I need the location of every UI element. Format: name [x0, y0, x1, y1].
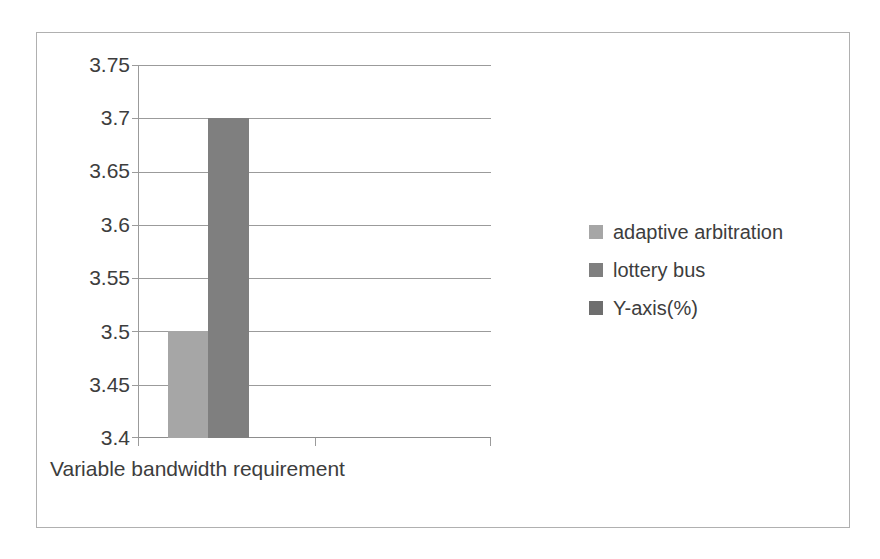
legend-item-label: lottery bus: [613, 260, 705, 280]
y-tick-mark: [132, 225, 139, 226]
chart-frame: 3.75 3.7 3.65 3.6 3.55 3.5 3.45 3.4: [36, 32, 850, 528]
y-axis-tick-label: 3.5: [101, 321, 130, 342]
gridline-3-65: [138, 172, 491, 173]
gridline-3-70: [138, 118, 491, 119]
legend-item-y-axis[interactable]: Y-axis(%): [589, 289, 783, 327]
bar-lottery-bus: [208, 118, 249, 438]
y-axis-tick-label: 3.4: [101, 427, 130, 448]
y-axis-line: [138, 65, 139, 438]
y-axis-tick-label: 3.7: [101, 107, 130, 128]
y-axis-tick-labels: 3.75 3.7 3.65 3.6 3.55 3.5 3.45 3.4: [37, 65, 130, 438]
y-tick-mark: [132, 278, 139, 279]
legend-swatch-icon: [589, 301, 603, 315]
bar-adaptive-arbitration: [168, 331, 208, 438]
y-axis-tick-label: 3.45: [89, 374, 130, 395]
y-axis-tick-label: 3.55: [89, 267, 130, 288]
legend-item-label: adaptive arbitration: [613, 222, 783, 242]
legend-swatch-icon: [589, 263, 603, 277]
x-tick-mark: [138, 438, 139, 446]
legend-swatch-icon: [589, 225, 603, 239]
x-tick-mark: [315, 438, 316, 446]
y-axis-tick-label: 3.6: [101, 214, 130, 235]
y-axis-tick-label: 3.65: [89, 160, 130, 181]
plot-area: [138, 65, 491, 438]
gridline-3-75: [138, 65, 491, 66]
legend-item-label: Y-axis(%): [613, 298, 698, 318]
legend-item-lottery-bus[interactable]: lottery bus: [589, 251, 783, 289]
y-tick-mark: [132, 65, 139, 66]
y-tick-mark: [132, 385, 139, 386]
y-tick-mark: [132, 331, 139, 332]
x-tick-mark: [490, 438, 491, 446]
x-axis-label: Variable bandwidth requirement: [50, 457, 345, 481]
y-tick-mark: [132, 172, 139, 173]
legend: adaptive arbitration lottery bus Y-axis(…: [589, 213, 783, 327]
gridline-3-55: [138, 278, 491, 279]
legend-item-adaptive-arbitration[interactable]: adaptive arbitration: [589, 213, 783, 251]
y-tick-mark: [132, 118, 139, 119]
y-axis-tick-label: 3.75: [89, 54, 130, 75]
gridline-3-60: [138, 225, 491, 226]
